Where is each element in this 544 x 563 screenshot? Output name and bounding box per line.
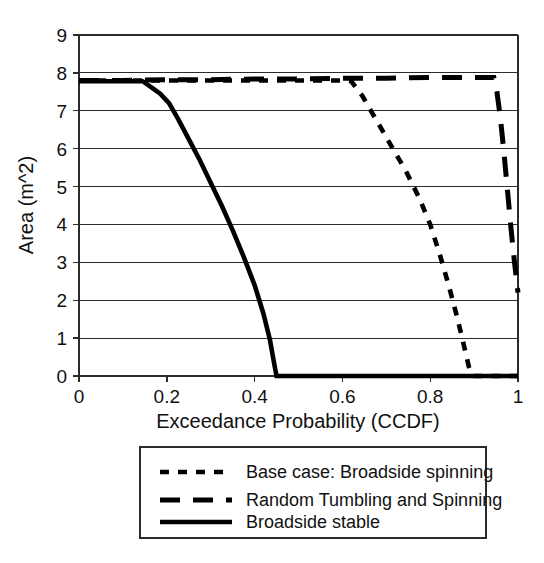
x-tick-label-0.2: 0.2 xyxy=(154,386,180,407)
x-tick-label-1: 1 xyxy=(513,386,524,407)
y-tick-label-4: 4 xyxy=(56,214,67,235)
y-tick-label-1: 1 xyxy=(56,328,67,349)
chart-figure: 0123456789 00.20.40.60.81 Exceedance Pro… xyxy=(0,0,544,563)
x-tick-label-0.6: 0.6 xyxy=(329,386,355,407)
ccdf-area-chart: 0123456789 00.20.40.60.81 Exceedance Pro… xyxy=(0,0,544,563)
legend-label-0: Base case: Broadside spinning xyxy=(246,462,493,482)
x-tick-label-0: 0 xyxy=(74,386,85,407)
x-tick-label-0.8: 0.8 xyxy=(417,386,443,407)
y-tick-label-2: 2 xyxy=(56,290,67,311)
y-tick-label-0: 0 xyxy=(56,366,67,387)
legend-label-2: Broadside stable xyxy=(246,512,380,532)
y-axis-title: Area (m^2) xyxy=(15,156,37,254)
y-tick-label-5: 5 xyxy=(56,177,67,198)
y-tick-label-3: 3 xyxy=(56,252,67,273)
y-tick-label-9: 9 xyxy=(56,25,67,46)
y-tick-label-7: 7 xyxy=(56,101,67,122)
y-tick-label-8: 8 xyxy=(56,63,67,84)
x-tick-label-0.4: 0.4 xyxy=(241,386,268,407)
legend-label-1: Random Tumbling and Spinning xyxy=(246,490,502,510)
y-tick-label-6: 6 xyxy=(56,139,67,160)
chart-legend: Base case: Broadside spinningRandom Tumb… xyxy=(140,447,502,538)
x-axis-title: Exceedance Probability (CCDF) xyxy=(156,410,439,432)
